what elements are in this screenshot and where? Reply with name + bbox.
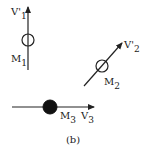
body-m1: V'1 M1 [10,6,34,70]
solid-mass-3 [43,100,57,114]
velocity-label-3: V3 [80,110,94,125]
mass-label-2: M2 [104,76,120,91]
velocity-label-1: V'1 [10,6,27,21]
body-m2: V'2 M2 [84,39,140,91]
velocity-arrow-2 [84,43,122,86]
body-m3: M3 V3 [12,100,94,125]
velocity-label-2: V'2 [123,39,140,54]
collision-diagram: V'1 M1 V'2 M2 M3 V3 (b) [0,0,146,151]
figure-caption: (b) [66,134,80,145]
mass-label-1: M1 [11,53,27,68]
mass-label-3: M3 [60,110,76,125]
